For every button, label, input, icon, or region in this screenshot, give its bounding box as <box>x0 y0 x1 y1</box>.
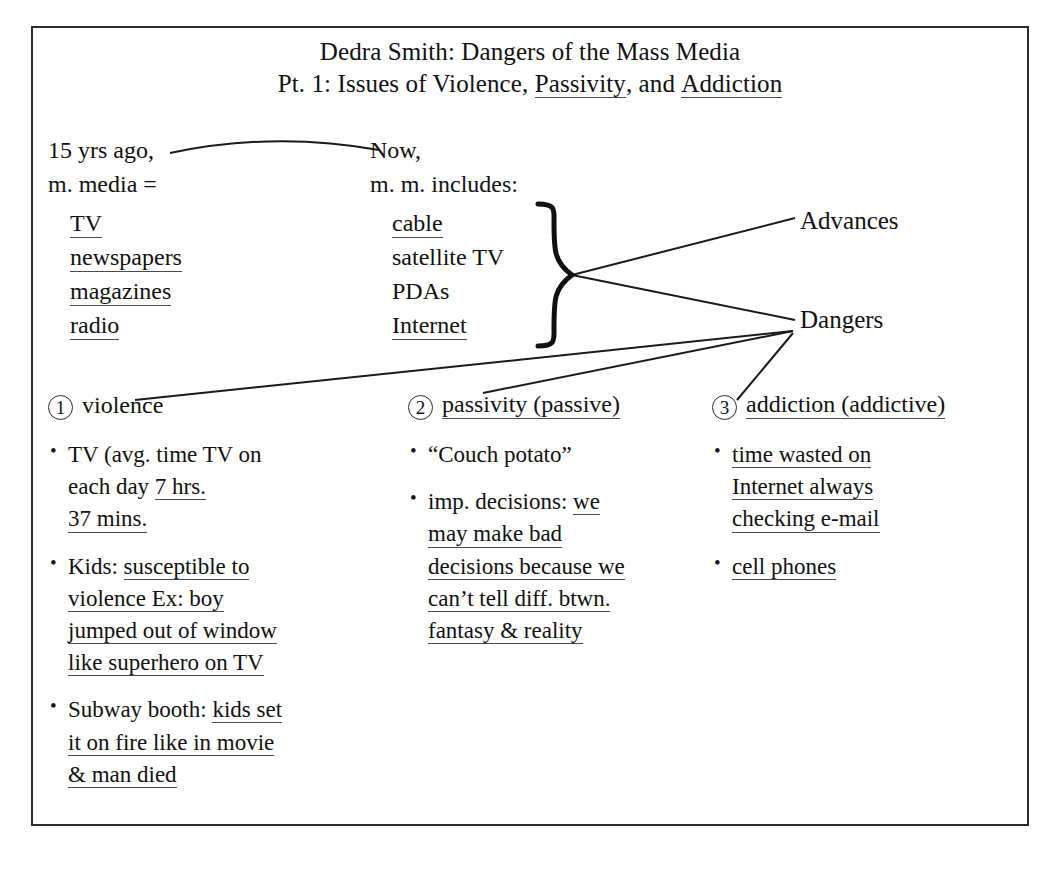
bullet-text-underlined: & man died <box>68 763 177 788</box>
title-line-1: Dedra Smith: Dangers of the Mass Media <box>31 36 1029 68</box>
section-heading: 2passivity (passive) <box>408 392 708 420</box>
bullet-line: Kids: susceptible to <box>68 551 358 583</box>
bullet-line: can’t tell diff. btwn. <box>428 583 708 615</box>
bullet-text-underlined: checking e-mail <box>732 507 880 532</box>
bullet-text-underlined: kids set <box>212 698 282 723</box>
section-number-circle: 2 <box>408 395 433 420</box>
bullet-item: imp. decisions: wemay make baddecisions … <box>408 486 708 647</box>
list-item-label: magazines <box>70 279 171 306</box>
section-passivity: 2passivity (passive)“Couch potato”imp. d… <box>408 392 708 662</box>
list-item-label: Internet <box>392 313 467 340</box>
bullet-line: cell phones <box>732 551 1012 583</box>
title-term-passivity: Passivity <box>535 70 626 98</box>
bullet-line: checking e-mail <box>732 503 1012 535</box>
list-item-label: radio <box>70 313 119 340</box>
label-dangers: Dangers <box>800 306 883 334</box>
list-item: radio <box>48 309 182 342</box>
bullet-line: jumped out of window <box>68 615 358 647</box>
bullet-line: imp. decisions: we <box>428 486 708 518</box>
bullet-text-underlined: can’t tell diff. btwn. <box>428 587 610 612</box>
section-bullet-list: “Couch potato”imp. decisions: wemay make… <box>408 439 708 647</box>
bullet-item: time wasted onInternet alwayschecking e-… <box>712 439 1012 536</box>
bullet-text-underlined: 7 hrs. <box>155 475 206 500</box>
title-line-2: Pt. 1: Issues of Violence, Passivity, an… <box>31 68 1029 100</box>
bullet-text-underlined: jumped out of window <box>68 619 277 644</box>
label-advances: Advances <box>800 207 899 235</box>
bullet-line: violence Ex: boy <box>68 583 358 615</box>
now-heading: Now, m. m. includes: <box>370 133 518 201</box>
bullet-text-plain: “Couch potato” <box>428 442 572 467</box>
list-item: cable <box>370 207 518 240</box>
bullet-text-plain: imp. decisions: <box>428 489 573 514</box>
bullet-line: it on fire like in movie <box>68 727 358 759</box>
now-heading-line-2: m. m. includes: <box>370 167 518 201</box>
now-media-list: cablesatellite TVPDAsInternet <box>370 207 518 342</box>
list-item: newspapers <box>48 241 182 274</box>
title-line-2-prefix: Pt. 1: Issues of Violence, <box>278 70 535 97</box>
bullet-text-plain: each day <box>68 474 155 499</box>
list-item-label: PDAs <box>392 278 449 304</box>
section-heading-label: passivity (passive) <box>442 392 620 419</box>
bullet-text-plain: Subway booth: <box>68 697 212 722</box>
section-bullet-list: TV (avg. time TV oneach day 7 hrs.37 min… <box>48 439 358 791</box>
bullet-line: may make bad <box>428 518 708 550</box>
curly-brace <box>532 200 578 350</box>
section-violence: 1violenceTV (avg. time TV oneach day 7 h… <box>48 392 358 806</box>
section-bullet-list: time wasted onInternet alwayschecking e-… <box>712 439 1012 583</box>
bullet-text-underlined: violence Ex: boy <box>68 587 224 612</box>
list-item: PDAs <box>370 275 518 308</box>
bullet-text-underlined: decisions because we <box>428 555 625 580</box>
section-heading-label: addiction (addictive) <box>746 392 945 419</box>
then-heading: 15 yrs ago, m. media = <box>48 133 182 201</box>
section-number-circle: 3 <box>712 395 737 420</box>
bullet-item: Subway booth: kids setit on fire like in… <box>48 694 358 791</box>
bullet-line: Subway booth: kids set <box>68 694 358 726</box>
bullet-item: cell phones <box>712 551 1012 583</box>
bullet-text-plain: Kids: <box>68 554 124 579</box>
bullet-item: Kids: susceptible toviolence Ex: boyjump… <box>48 551 358 680</box>
then-heading-line-1: 15 yrs ago, <box>48 133 182 167</box>
title-line-2-mid: , and <box>626 70 681 97</box>
list-item-label: satellite TV <box>392 244 504 270</box>
section-heading: 1violence <box>48 392 358 420</box>
list-item: TV <box>48 207 182 240</box>
bullet-line: “Couch potato” <box>428 439 708 471</box>
bullet-line: like superhero on TV <box>68 647 358 679</box>
bullet-text-underlined: cell phones <box>732 555 836 580</box>
bullet-line: & man died <box>68 759 358 791</box>
bullet-text-underlined: Internet always <box>732 475 873 500</box>
bullet-text-underlined: fantasy & reality <box>428 619 583 644</box>
list-item-label: cable <box>392 211 443 238</box>
bullet-text-plain: TV (avg. time TV on <box>68 442 262 467</box>
then-media-list: TVnewspapersmagazinesradio <box>48 207 182 342</box>
notes-page: Dedra Smith: Dangers of the Mass Media P… <box>0 0 1055 869</box>
bullet-item: “Couch potato” <box>408 439 708 471</box>
bullet-text-underlined: it on fire like in movie <box>68 731 274 756</box>
bullet-text-underlined: like superhero on TV <box>68 651 264 676</box>
bullet-line: TV (avg. time TV on <box>68 439 358 471</box>
bullet-line: Internet always <box>732 471 1012 503</box>
now-heading-line-1: Now, <box>370 133 518 167</box>
bullet-item: TV (avg. time TV oneach day 7 hrs.37 min… <box>48 439 358 536</box>
then-heading-line-2: m. media = <box>48 167 182 201</box>
section-heading: 3addiction (addictive) <box>712 392 1012 420</box>
list-item-label: newspapers <box>70 245 182 272</box>
section-number-circle: 1 <box>48 395 73 420</box>
list-item: satellite TV <box>370 241 518 274</box>
bullet-line: decisions because we <box>428 551 708 583</box>
bullet-text-underlined: we <box>573 490 600 515</box>
page-title: Dedra Smith: Dangers of the Mass Media P… <box>31 36 1029 100</box>
bullet-text-underlined: time wasted on <box>732 443 871 468</box>
compare-column-now: Now, m. m. includes: cablesatellite TVPD… <box>370 133 518 344</box>
compare-column-then: 15 yrs ago, m. media = TVnewspapersmagaz… <box>48 133 182 344</box>
list-item-label: TV <box>70 211 102 238</box>
bullet-line: each day 7 hrs. <box>68 471 358 503</box>
bullet-text-underlined: 37 mins. <box>68 507 147 532</box>
section-heading-label: violence <box>82 392 163 420</box>
bullet-line: time wasted on <box>732 439 1012 471</box>
bullet-line: 37 mins. <box>68 503 358 535</box>
list-item: Internet <box>370 309 518 342</box>
bullet-line: fantasy & reality <box>428 615 708 647</box>
list-item: magazines <box>48 275 182 308</box>
title-term-addiction: Addiction <box>681 70 782 98</box>
